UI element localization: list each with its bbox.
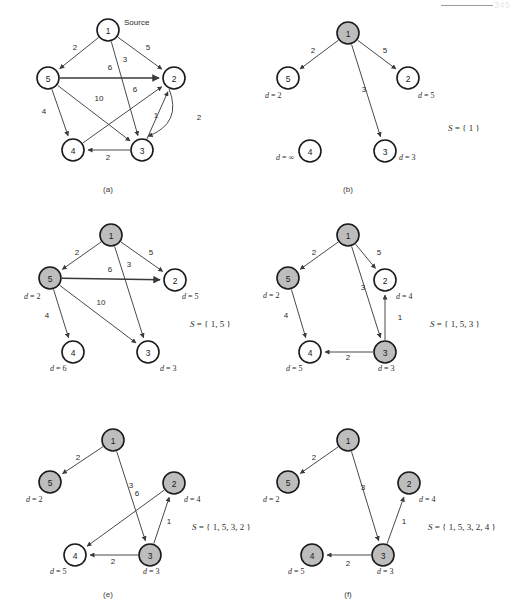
panel-a: 2536410612215243(a) bbox=[37, 19, 202, 194]
node-label-5: 5 bbox=[286, 478, 291, 488]
edge-weight-5-4: 4 bbox=[45, 311, 50, 320]
node-label-1: 1 bbox=[346, 436, 351, 446]
edge-weight-1-5: 2 bbox=[73, 43, 78, 52]
node-label-3: 3 bbox=[140, 146, 145, 156]
distance-label-2: d = 4 bbox=[396, 292, 413, 301]
set-label-c: S = { 1, 5 } bbox=[190, 319, 231, 329]
edge-weight-3-2: 1 bbox=[402, 517, 407, 526]
distance-label-5: d = 2 bbox=[265, 91, 282, 100]
distance-label-3: d = 3 bbox=[143, 567, 160, 576]
node-label-3: 3 bbox=[383, 147, 388, 157]
distance-label-2: d = 4 bbox=[184, 495, 201, 504]
edge-weight-1-5: 2 bbox=[76, 453, 81, 462]
panel-caption-f: (f) bbox=[344, 590, 352, 599]
dijkstra-figure: 345 2536410612215243(a)25315d = 22d = 54… bbox=[0, 0, 522, 608]
set-label-e: S = { 1, 5, 3, 2 } bbox=[192, 522, 251, 532]
graph-canvas: 2536410612215243(a)25315d = 22d = 54d = … bbox=[0, 0, 522, 608]
edge-2-to-4 bbox=[87, 490, 164, 546]
edge-5-to-4 bbox=[54, 289, 69, 337]
panel-c: 253641015d = 22d = 54d = 63d = 3S = { 1,… bbox=[24, 224, 231, 373]
node-label-2: 2 bbox=[173, 276, 178, 286]
edge-1-to-3 bbox=[351, 451, 378, 540]
node-label-4: 4 bbox=[310, 551, 315, 561]
distance-label-5: d = 2 bbox=[263, 495, 280, 504]
edge-1-to-2 bbox=[356, 244, 376, 268]
edge-weight-3-4: 2 bbox=[346, 353, 351, 362]
node-label-1: 1 bbox=[106, 26, 111, 36]
distance-label-2: d = 5 bbox=[418, 91, 435, 100]
edge-1-to-5 bbox=[300, 447, 338, 474]
edge-weight-1-3: 3 bbox=[362, 85, 367, 94]
edge-weight-3-2: 1 bbox=[154, 111, 159, 120]
node-label-2: 2 bbox=[172, 479, 177, 489]
edge-1-to-5 bbox=[60, 37, 99, 68]
panel-e: 2361215d = 22d = 44d = 53d = 3S = { 1, 5… bbox=[26, 429, 251, 599]
panel-b: 25315d = 22d = 54d = ∞3d = 3S = { 1 }(b) bbox=[265, 22, 480, 194]
distance-label-3: d = 3 bbox=[377, 567, 394, 576]
node-label-3: 3 bbox=[146, 348, 151, 358]
edge-weight-1-5: 2 bbox=[312, 248, 317, 257]
source-annotation: Source bbox=[124, 18, 150, 27]
edge-1-to-5 bbox=[62, 447, 103, 474]
node-label-5: 5 bbox=[286, 274, 291, 284]
edge-weight-2-4: 6 bbox=[135, 489, 140, 498]
edge-1-to-2 bbox=[118, 37, 162, 69]
distance-label-2: d = 5 bbox=[182, 292, 199, 301]
node-label-5: 5 bbox=[48, 274, 53, 284]
distance-label-5: d = 2 bbox=[24, 292, 41, 301]
set-label-f: S = { 1, 5, 3, 2, 4 } bbox=[428, 522, 496, 532]
edge-weight-1-2: 5 bbox=[149, 248, 154, 257]
edge-weight-5-3: 10 bbox=[95, 94, 104, 103]
node-label-1: 1 bbox=[111, 436, 116, 446]
edge-5-to-4 bbox=[291, 290, 305, 338]
edge-weight-1-2: 5 bbox=[383, 46, 388, 55]
node-label-3: 3 bbox=[148, 551, 153, 561]
node-label-5: 5 bbox=[46, 74, 51, 84]
node-label-4: 4 bbox=[71, 348, 76, 358]
edge-1-to-3 bbox=[352, 246, 381, 337]
edge-weight-3-4: 2 bbox=[106, 153, 111, 162]
node-label-3: 3 bbox=[383, 348, 388, 358]
panel-f: 231215d = 22d = 44d = 53d = 3S = { 1, 5,… bbox=[263, 429, 496, 599]
distance-label-4: d = 5 bbox=[50, 567, 67, 576]
distance-label-4: d = 6 bbox=[50, 364, 67, 373]
distance-label-3: d = 3 bbox=[160, 364, 177, 373]
node-label-5: 5 bbox=[48, 478, 53, 488]
edge-1-to-3 bbox=[117, 451, 146, 540]
edge-weight-5-4: 4 bbox=[284, 311, 289, 320]
node-label-4: 4 bbox=[308, 147, 313, 157]
edge-1-to-5 bbox=[62, 242, 101, 269]
edge-weight-1-3: 3 bbox=[361, 483, 366, 492]
edge-weight-1-3: 3 bbox=[127, 260, 132, 269]
node-label-5: 5 bbox=[286, 74, 291, 84]
edge-1-to-5 bbox=[300, 40, 338, 69]
node-label-2: 2 bbox=[406, 74, 411, 84]
set-label-d: S = { 1, 5, 3 } bbox=[430, 319, 480, 329]
edge-weight-1-3: 3 bbox=[123, 55, 128, 64]
distance-label-4: d = 5 bbox=[286, 364, 303, 373]
node-label-4: 4 bbox=[71, 146, 76, 156]
node-label-4: 4 bbox=[73, 551, 78, 561]
edge-5-to-2 bbox=[62, 278, 160, 280]
edge-2-to-3 bbox=[148, 89, 173, 136]
panel-d: 25341215d = 22d = 44d = 53d = 3S = { 1, … bbox=[263, 224, 480, 373]
distance-label-3: d = 3 bbox=[399, 153, 416, 162]
node-label-2: 2 bbox=[383, 276, 388, 286]
edge-weight-3-2: 1 bbox=[167, 517, 172, 526]
edge-weight-1-5: 2 bbox=[312, 453, 317, 462]
distance-label-4: d = ∞ bbox=[276, 153, 295, 162]
edge-weight-1-2: 5 bbox=[146, 43, 151, 52]
edge-weight-1-5: 2 bbox=[311, 46, 316, 55]
node-label-1: 1 bbox=[346, 231, 351, 241]
distance-label-2: d = 4 bbox=[419, 495, 436, 504]
edge-weight-5-4: 4 bbox=[42, 107, 47, 116]
edge-weight-1-2: 5 bbox=[377, 248, 382, 257]
edge-5-to-3 bbox=[60, 285, 136, 343]
distance-label-5: d = 2 bbox=[263, 291, 280, 300]
edge-weight-1-3: 3 bbox=[129, 481, 134, 490]
node-label-1: 1 bbox=[346, 29, 351, 39]
edge-weight-1-3: 3 bbox=[361, 283, 366, 292]
node-label-4: 4 bbox=[308, 348, 313, 358]
edge-weight-3-2: 1 bbox=[398, 313, 403, 322]
node-label-1: 1 bbox=[109, 231, 114, 241]
